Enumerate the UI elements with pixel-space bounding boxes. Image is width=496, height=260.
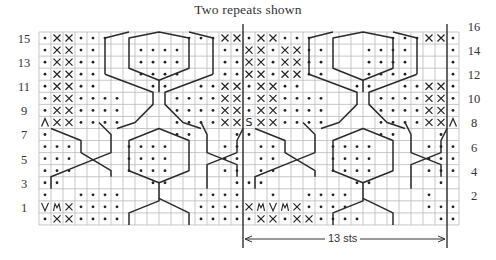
purl-dot-icon: [296, 85, 299, 88]
knitting-chart: Two repeats shown S 15131197531 16141210…: [0, 0, 496, 260]
purl-dot-icon: [80, 85, 83, 88]
cross-stitch-icon: [258, 215, 265, 222]
purl-dot-icon: [452, 85, 455, 88]
purl-dot-icon: [236, 61, 239, 64]
purl-dot-icon: [344, 157, 347, 160]
purl-dot-icon: [80, 97, 83, 100]
row-label: 16: [464, 20, 484, 35]
cross-stitch-icon: [294, 215, 301, 222]
purl-dot-icon: [332, 193, 335, 196]
cross-stitch-icon: [270, 107, 277, 114]
cross-stitch-icon: [438, 95, 445, 102]
purl-dot-icon: [368, 157, 371, 160]
cross-stitch-icon: [66, 71, 73, 78]
purl-dot-icon: [440, 181, 443, 184]
purl-dot-icon: [368, 61, 371, 64]
purl-dot-icon: [236, 205, 239, 208]
cross-stitch-icon: [270, 95, 277, 102]
purl-dot-icon: [356, 145, 359, 148]
row-label: 7: [14, 128, 34, 143]
purl-dot-icon: [152, 61, 155, 64]
special-stitch-icon: S: [246, 116, 253, 129]
purl-dot-icon: [200, 205, 203, 208]
purl-dot-icon: [224, 145, 227, 148]
purl-dot-icon: [80, 61, 83, 64]
purl-dot-icon: [212, 205, 215, 208]
purl-dot-icon: [92, 97, 95, 100]
cross-stitch-icon: [66, 215, 73, 222]
cross-stitch-icon: [258, 83, 265, 90]
purl-dot-icon: [92, 37, 95, 40]
repeat-width-label: 13 sts: [325, 232, 360, 244]
purl-dot-icon: [404, 61, 407, 64]
purl-dot-icon: [272, 61, 275, 64]
purl-dot-icon: [80, 73, 83, 76]
make-one-icon: [54, 204, 61, 211]
purl-dot-icon: [320, 73, 323, 76]
purl-dot-icon: [200, 109, 203, 112]
cross-stitch-icon: [54, 119, 61, 126]
purl-dot-icon: [284, 85, 287, 88]
row-label: 13: [14, 56, 34, 71]
cross-stitch-icon: [426, 35, 433, 42]
cross-stitch-icon: [258, 119, 265, 126]
purl-dot-icon: [224, 205, 227, 208]
purl-dot-icon: [440, 218, 443, 221]
make-one-icon: [282, 204, 289, 211]
purl-dot-icon: [272, 193, 275, 196]
purl-dot-icon: [80, 37, 83, 40]
purl-dot-icon: [452, 37, 455, 40]
cross-stitch-icon: [66, 107, 73, 114]
purl-dot-icon: [260, 181, 263, 184]
purl-dot-icon: [80, 49, 83, 52]
cable-line: [105, 74, 153, 128]
purl-dot-icon: [212, 97, 215, 100]
purl-dot-icon: [44, 85, 47, 88]
cross-stitch-icon: [258, 47, 265, 54]
purl-dot-icon: [104, 97, 107, 100]
purl-dot-icon: [368, 73, 371, 76]
row-label: 3: [14, 177, 34, 192]
purl-dot-icon: [380, 49, 383, 52]
cross-stitch-icon: [54, 35, 61, 42]
purl-dot-icon: [320, 218, 323, 221]
purl-dot-icon: [308, 121, 311, 124]
cross-stitch-icon: [66, 83, 73, 90]
purl-dot-icon: [140, 169, 143, 172]
purl-dot-icon: [452, 49, 455, 52]
purl-dot-icon: [152, 181, 155, 184]
purl-dot-icon: [44, 145, 47, 148]
row-label: 10: [464, 92, 484, 107]
row-label: 12: [464, 68, 484, 83]
purl-dot-icon: [116, 193, 119, 196]
cross-stitch-icon: [66, 203, 73, 210]
purl-dot-icon: [272, 73, 275, 76]
purl-dot-icon: [404, 85, 407, 88]
purl-dot-icon: [392, 109, 395, 112]
cross-stitch-icon: [54, 47, 61, 54]
purl-dot-icon: [284, 121, 287, 124]
purl-dot-icon: [224, 49, 227, 52]
purl-dot-icon: [116, 109, 119, 112]
purl-dot-icon: [176, 49, 179, 52]
cross-stitch-icon: [258, 59, 265, 66]
purl-dot-icon: [188, 97, 191, 100]
purl-dot-icon: [188, 109, 191, 112]
purl-dot-icon: [224, 193, 227, 196]
purl-dot-icon: [284, 97, 287, 100]
cross-stitch-icon: [222, 83, 229, 90]
cross-stitch-icon: [270, 119, 277, 126]
cross-stitch-icon: [438, 83, 445, 90]
cross-stitch-icon: [282, 71, 289, 78]
purl-dot-icon: [224, 218, 227, 221]
purl-dot-icon: [356, 169, 359, 172]
purl-dot-icon: [248, 218, 251, 221]
purl-dot-icon: [236, 73, 239, 76]
cross-stitch-icon: [258, 95, 265, 102]
purl-dot-icon: [44, 157, 47, 160]
purl-dot-icon: [332, 205, 335, 208]
purl-dot-icon: [320, 61, 323, 64]
purl-dot-icon: [380, 97, 383, 100]
purl-dot-icon: [92, 205, 95, 208]
purl-dot-icon: [44, 73, 47, 76]
